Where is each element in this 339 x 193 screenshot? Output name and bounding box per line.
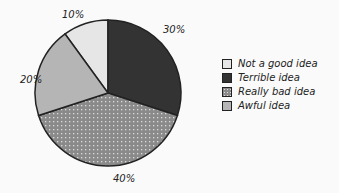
legend-item-terrible-idea: Terrible idea	[222, 71, 318, 84]
legend-swatch	[222, 59, 232, 69]
legend: Not a good idea Terrible idea Really bad…	[222, 57, 318, 113]
legend-swatch	[222, 87, 232, 97]
slice-label-30: 30%	[163, 24, 185, 35]
slice-label-40: 40%	[113, 173, 135, 184]
legend-swatch	[222, 73, 232, 83]
slice-label-10: 10%	[62, 9, 84, 20]
legend-swatch	[222, 101, 232, 111]
slice-label-20: 20%	[20, 74, 42, 85]
legend-item-really-bad-idea: Really bad idea	[222, 85, 318, 98]
legend-item-awful-idea: Awful idea	[222, 99, 318, 112]
legend-item-not-a-good-idea: Not a good idea	[222, 57, 318, 70]
